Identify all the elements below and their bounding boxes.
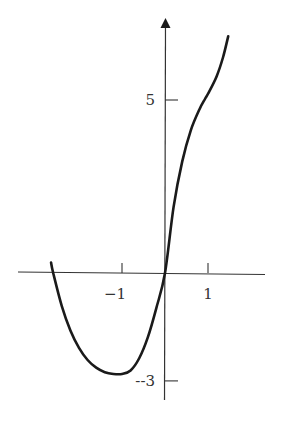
function-graph: −11 5--3 (0, 0, 288, 423)
y-tick-label: 5 (145, 91, 155, 109)
y-ticks: 5--3 (135, 91, 178, 390)
series-line-f (51, 36, 228, 374)
x-tick-label: −1 (104, 285, 126, 303)
y-axis (165, 26, 166, 400)
x-tick-label: 1 (203, 285, 213, 303)
y-axis-arrow-icon (161, 18, 171, 28)
y-tick-label: --3 (135, 372, 155, 390)
x-axis (18, 272, 265, 275)
